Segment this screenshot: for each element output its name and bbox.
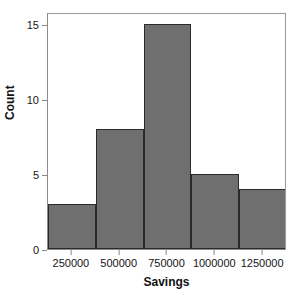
histogram-bar — [48, 204, 96, 249]
x-axis-tick-label: 1250000 — [241, 257, 284, 269]
x-axis-tick: 750000 — [148, 250, 185, 269]
y-axis-tick-label: 0 — [33, 245, 42, 256]
bars-layer — [48, 14, 285, 249]
x-axis-tick-label: 500000 — [100, 257, 137, 269]
y-axis-tick-label: 10 — [27, 95, 42, 106]
y-axis-title: Count — [3, 104, 17, 120]
x-axis-tick: 250000 — [53, 250, 90, 269]
plot-area — [47, 13, 286, 250]
x-axis-tick-mark — [70, 250, 71, 255]
y-axis-tick-label: 5 — [33, 170, 42, 181]
x-axis-tick-mark — [118, 250, 119, 255]
x-axis-tick-label: 250000 — [53, 257, 90, 269]
histogram-bar — [191, 174, 239, 249]
x-axis-tick: 1250000 — [241, 250, 284, 269]
x-axis-tick-label: 750000 — [148, 257, 185, 269]
x-axis-tick-mark — [214, 250, 215, 255]
x-axis-title: Savings — [47, 275, 286, 289]
x-axis-tick-mark — [166, 250, 167, 255]
histogram-bar — [144, 24, 192, 249]
y-axis: Count 051015 — [0, 0, 47, 293]
histogram-chart: Count 051015 250000500000750000100000012… — [0, 0, 295, 293]
x-axis-tick: 500000 — [100, 250, 137, 269]
x-axis-tick: 1000000 — [193, 250, 236, 269]
y-axis-tick-label: 15 — [27, 20, 42, 31]
histogram-bar — [96, 129, 144, 249]
x-axis-tick-mark — [262, 250, 263, 255]
histogram-bar — [239, 189, 286, 249]
x-axis-tick-label: 1000000 — [193, 257, 236, 269]
